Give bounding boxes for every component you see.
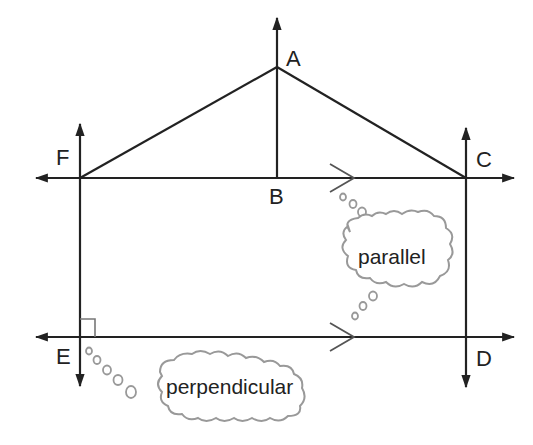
point-label-e: E bbox=[56, 346, 71, 368]
perpendicular-bubble-dots bbox=[86, 348, 136, 399]
point-label-a: A bbox=[286, 48, 301, 70]
right-angle-mark bbox=[80, 319, 95, 337]
perpendicular-label: perpendicular bbox=[166, 376, 293, 397]
parallel-label: parallel bbox=[358, 246, 426, 267]
point-label-d: D bbox=[476, 348, 492, 370]
segment-fa bbox=[80, 67, 277, 178]
segment-ac bbox=[277, 67, 466, 178]
point-label-c: C bbox=[476, 149, 492, 171]
point-label-b: B bbox=[269, 186, 284, 208]
point-label-f: F bbox=[56, 147, 69, 169]
